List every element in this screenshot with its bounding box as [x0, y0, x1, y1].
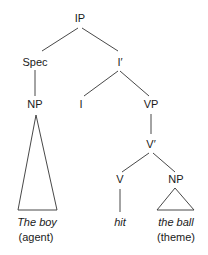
edge-ibar-vp [120, 71, 149, 96]
node-spec: Spec [22, 56, 48, 68]
np-subject-triangle [18, 115, 57, 210]
node-np-object: NP [168, 173, 183, 185]
node-i-bar: I′ [117, 56, 122, 68]
node-i: I [79, 98, 82, 110]
np-object-triangle [157, 188, 194, 210]
role-theme: (theme) [157, 231, 195, 243]
node-np-subject: NP [27, 98, 42, 110]
node-v: V [116, 173, 124, 185]
edge-ip-spec [42, 28, 78, 51]
role-agent: (agent) [19, 231, 54, 243]
edge-ip-ibar [82, 28, 118, 51]
leaf-the-boy: The boy [17, 216, 58, 228]
edge-vbar-np [153, 153, 175, 172]
leaf-the-ball: the ball [158, 216, 194, 228]
node-v-bar: V′ [146, 138, 155, 150]
edge-vbar-v [122, 153, 149, 172]
syntax-tree-diagram: IP Spec I′ NP I VP V′ V NP The boy (agen… [0, 0, 208, 255]
edge-ibar-i [84, 71, 118, 96]
node-vp: VP [144, 98, 159, 110]
leaf-hit: hit [114, 216, 127, 228]
node-ip: IP [75, 12, 85, 24]
